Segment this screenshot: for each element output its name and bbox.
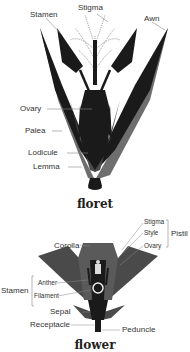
flower-label-filament: Filament	[34, 293, 59, 300]
flower-label-corolla: Corolla	[54, 242, 79, 250]
flower-label-stamen: Stamen	[1, 287, 29, 295]
flower-label-ovary: Ovary	[144, 243, 161, 250]
flower-label-style: Style	[144, 230, 158, 237]
flower-label-peduncle: Peduncle	[122, 326, 155, 334]
flower-label-receptacle: Receptacle	[30, 321, 70, 329]
flower-diagram	[0, 0, 190, 352]
flower-caption: flower	[0, 338, 190, 352]
flower-label-anther: Anther	[38, 280, 57, 287]
flower-label-sepal: Sepal	[50, 308, 70, 316]
flower-label-stigma: Stigma	[144, 219, 164, 226]
flower-label-pistil: Pistil	[171, 230, 188, 238]
